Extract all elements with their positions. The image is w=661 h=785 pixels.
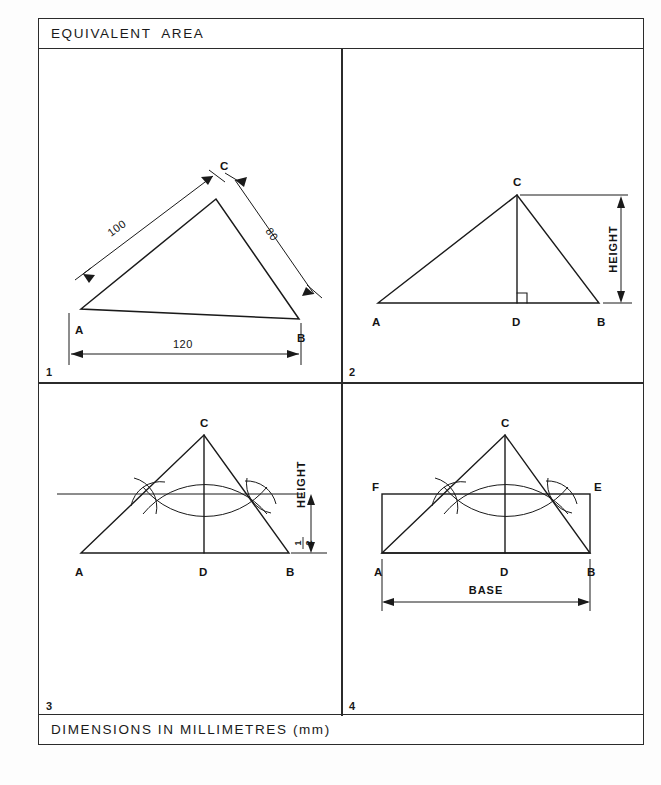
- construction-arc-upper: [143, 485, 267, 514]
- fraction-numerator: 1: [293, 540, 303, 545]
- arrow-120-end: [287, 350, 299, 358]
- arrow-120-start: [71, 350, 83, 358]
- dim-label-base: BASE: [469, 584, 504, 596]
- units-note: DIMENSIONS IN MILLIMETRES (mm): [39, 722, 331, 737]
- dim-label-half-height-word: HEIGHT: [295, 460, 307, 508]
- arrow-height-top: [617, 196, 625, 208]
- figure-2-height: A B C D HEIGHT: [342, 49, 644, 382]
- arrow-height-bottom: [617, 291, 625, 303]
- cross-arc-right-b: [245, 481, 276, 504]
- construction-arc-lower: [444, 487, 568, 516]
- vertex-label-a: A: [372, 316, 380, 328]
- vertex-label-d: D: [199, 566, 207, 578]
- figure-1-triangle-given: A B C 100 80 120: [39, 49, 341, 382]
- vertex-label-f: F: [372, 481, 379, 493]
- fraction-denominator: 2: [304, 540, 314, 545]
- footer-block: DIMENSIONS IN MILLIMETRES (mm): [39, 714, 643, 744]
- triangle-abc: [81, 199, 299, 319]
- quadrant-4: A B C D E F BASE 4: [342, 383, 644, 716]
- construction-arc-upper: [444, 485, 568, 514]
- drawing-sheet-frame: EQUIVALENT AREA: [38, 18, 644, 745]
- dim-label-100: 100: [105, 217, 128, 238]
- vertex-label-a: A: [374, 566, 382, 578]
- quadrant-number-4: 4: [349, 700, 355, 712]
- sheet-title: EQUIVALENT AREA: [39, 26, 204, 41]
- arrow-base-end: [578, 598, 590, 606]
- vertex-label-b: B: [587, 566, 595, 578]
- vertex-label-c: C: [200, 417, 208, 429]
- quadrant-grid: A B C 100 80 120 1: [39, 49, 643, 716]
- quadrant-number-1: 1: [46, 366, 52, 378]
- quadrant-3: A B C D HEIGHT 1 2 3: [39, 383, 341, 716]
- vertex-label-c: C: [220, 160, 228, 172]
- vertex-label-d: D: [500, 566, 508, 578]
- dim-line-100: [83, 176, 213, 274]
- cross-arc-right-b: [546, 481, 577, 504]
- vertex-label-b: B: [597, 316, 605, 328]
- vertex-label-a: A: [75, 566, 83, 578]
- right-angle-mark: [517, 293, 527, 303]
- vertex-label-c: C: [513, 176, 521, 188]
- vertex-label-b: B: [286, 566, 294, 578]
- arrow-base-start: [382, 598, 394, 606]
- arrow-half-height-top: [307, 494, 315, 505]
- figure-3-half-height: A B C D HEIGHT 1 2: [39, 383, 341, 716]
- vertex-label-d: D: [512, 316, 520, 328]
- construction-arc-lower: [143, 487, 267, 516]
- title-block: EQUIVALENT AREA: [39, 19, 643, 49]
- dim-label-80: 80: [263, 225, 280, 243]
- dim-label-120: 120: [173, 338, 193, 350]
- quadrant-number-2: 2: [349, 366, 355, 378]
- arrow-100-start: [83, 274, 95, 283]
- triangle-abc: [378, 195, 599, 303]
- figure-4-equivalent-rectangle: A B C D E F BASE: [342, 383, 644, 716]
- quadrant-1: A B C 100 80 120 1: [39, 49, 341, 382]
- vertex-label-e: E: [594, 481, 602, 493]
- quadrant-2: A B C D HEIGHT 2: [342, 49, 644, 382]
- drawing-page: EQUIVALENT AREA: [0, 0, 661, 785]
- vertex-label-c: C: [501, 417, 509, 429]
- vertex-label-a: A: [75, 324, 83, 336]
- dim-label-height: HEIGHT: [607, 225, 619, 273]
- vertex-label-b: B: [297, 332, 305, 344]
- quadrant-number-3: 3: [46, 700, 52, 712]
